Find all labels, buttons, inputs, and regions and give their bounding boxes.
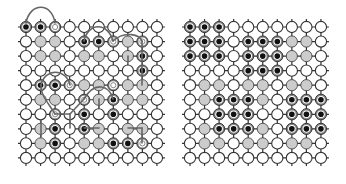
lattice-node xyxy=(315,80,326,91)
lattice-node xyxy=(214,152,225,163)
lattice-node xyxy=(243,21,254,32)
lattice-node xyxy=(108,65,119,76)
lattice-node xyxy=(214,94,225,105)
lattice-node xyxy=(50,51,61,62)
lattice-node xyxy=(93,138,104,149)
lattice-node xyxy=(20,65,31,76)
lattice-node xyxy=(286,65,297,76)
lattice-node xyxy=(64,138,75,149)
lattice-node xyxy=(272,51,283,62)
lattice-node xyxy=(20,109,31,120)
lattice-node xyxy=(257,65,268,76)
lattice-node xyxy=(50,94,61,105)
lattice-node xyxy=(301,94,312,105)
lattice-node xyxy=(286,123,297,134)
lattice-node xyxy=(199,80,210,91)
lattice-node xyxy=(93,51,104,62)
lattice-node xyxy=(35,152,46,163)
lattice-node xyxy=(199,109,210,120)
lattice-node xyxy=(228,36,239,47)
lattice-node xyxy=(184,65,195,76)
lattice-node xyxy=(151,109,162,120)
lattice-node xyxy=(20,138,31,149)
lattice-node xyxy=(50,152,61,163)
lattice-node xyxy=(35,21,46,32)
lattice-node xyxy=(93,123,104,134)
lattice-node xyxy=(50,138,61,149)
lattice-node xyxy=(228,152,239,163)
lattice-node xyxy=(257,51,268,62)
lattice-node xyxy=(301,65,312,76)
lattice-node xyxy=(243,138,254,149)
lattice-node xyxy=(20,94,31,105)
lattice-node xyxy=(228,21,239,32)
lattice-node xyxy=(228,65,239,76)
lattice-node xyxy=(20,152,31,163)
lattice-node xyxy=(35,36,46,47)
lattice-node xyxy=(257,152,268,163)
lattice-node xyxy=(301,123,312,134)
lattice-node xyxy=(286,109,297,120)
lattice-node xyxy=(315,65,326,76)
lattice-node xyxy=(315,21,326,32)
lattice-diagram xyxy=(0,0,346,184)
lattice-node xyxy=(286,21,297,32)
lattice-node xyxy=(79,109,90,120)
lattice-node xyxy=(301,152,312,163)
lattice-node xyxy=(214,36,225,47)
lattice-node xyxy=(301,109,312,120)
lattice-node xyxy=(199,138,210,149)
lattice-node xyxy=(257,123,268,134)
lattice-node xyxy=(214,138,225,149)
lattice-node xyxy=(93,36,104,47)
lattice-node xyxy=(214,123,225,134)
lattice-node xyxy=(315,36,326,47)
lattice-node xyxy=(64,21,75,32)
lattice-node xyxy=(228,51,239,62)
lattice-node xyxy=(257,21,268,32)
lattice-node xyxy=(184,21,195,32)
lattice-node xyxy=(122,94,133,105)
lattice-node xyxy=(137,21,148,32)
lattice-node xyxy=(272,80,283,91)
lattice-node xyxy=(243,109,254,120)
lattice-node xyxy=(272,65,283,76)
lattice-node xyxy=(122,109,133,120)
lattice-node xyxy=(199,94,210,105)
lattice-node xyxy=(315,51,326,62)
lattice-node xyxy=(243,51,254,62)
lattice-node xyxy=(108,94,119,105)
lattice-node xyxy=(228,123,239,134)
lattice-node xyxy=(301,80,312,91)
lattice-node xyxy=(257,109,268,120)
lattice-node xyxy=(93,65,104,76)
lattice-node xyxy=(184,36,195,47)
lattice-node xyxy=(228,94,239,105)
lattice-node xyxy=(50,123,61,134)
lattice-node xyxy=(35,94,46,105)
lattice-node xyxy=(257,138,268,149)
lattice-node xyxy=(272,152,283,163)
lattice-node xyxy=(108,109,119,120)
lattice-node xyxy=(243,36,254,47)
lattice-node xyxy=(64,94,75,105)
lattice-node xyxy=(272,94,283,105)
lattice-node xyxy=(137,109,148,120)
lattice-node xyxy=(151,80,162,91)
lattice-node xyxy=(108,21,119,32)
lattice-node xyxy=(199,65,210,76)
lattice-node xyxy=(122,138,133,149)
lattice-node xyxy=(228,80,239,91)
lattice-node xyxy=(64,65,75,76)
lattice-node xyxy=(35,51,46,62)
lattice-node xyxy=(50,80,61,91)
lattice-nodes xyxy=(184,21,326,163)
lattice-node xyxy=(79,80,90,91)
lattice-node xyxy=(184,51,195,62)
lattice-node xyxy=(199,123,210,134)
lattice-node xyxy=(243,80,254,91)
lattice-node xyxy=(199,21,210,32)
left-lattice-panel xyxy=(18,7,165,166)
lattice-node xyxy=(243,152,254,163)
lattice-node xyxy=(214,65,225,76)
